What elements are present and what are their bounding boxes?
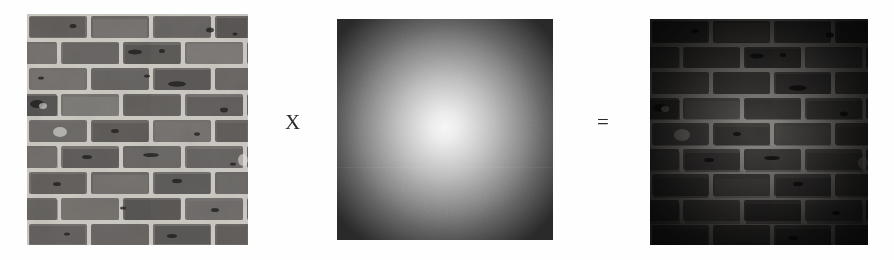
multiply-operator-symbol: X bbox=[285, 112, 300, 133]
radial-gradient-image bbox=[337, 19, 553, 240]
brick-texture-image bbox=[27, 14, 248, 245]
panel-source-brick-texture bbox=[27, 14, 248, 245]
panel-result-modulated-brick bbox=[650, 19, 868, 245]
gradient-grain-overlay bbox=[337, 19, 553, 240]
result-grain-overlay bbox=[650, 19, 868, 245]
brick-grain-overlay bbox=[27, 14, 248, 245]
panel-radial-gradient-mask bbox=[337, 19, 553, 240]
modulated-brick-image bbox=[650, 19, 868, 245]
equals-operator-symbol: = bbox=[597, 112, 609, 133]
figure-root: X bbox=[0, 0, 894, 260]
gradient-seam-line bbox=[337, 167, 553, 168]
